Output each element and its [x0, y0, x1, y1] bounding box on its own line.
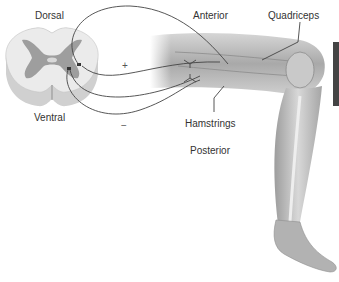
label-anterior: Anterior	[193, 10, 228, 21]
excitatory-sign: +	[122, 60, 128, 71]
label-posterior: Posterior	[190, 145, 230, 156]
label-quadriceps: Quadriceps	[268, 10, 319, 21]
label-dorsal: Dorsal	[35, 10, 64, 21]
leg-illustration	[150, 30, 336, 272]
label-ventral: Ventral	[34, 112, 65, 123]
reflex-diagram-artwork	[0, 0, 339, 282]
hamstrings-leader	[214, 86, 224, 112]
spinal-cord-section	[6, 28, 98, 106]
inhibitory-sign: −	[121, 120, 127, 131]
label-hamstrings: Hamstrings	[185, 118, 236, 129]
cropped-side-panel	[333, 42, 339, 106]
